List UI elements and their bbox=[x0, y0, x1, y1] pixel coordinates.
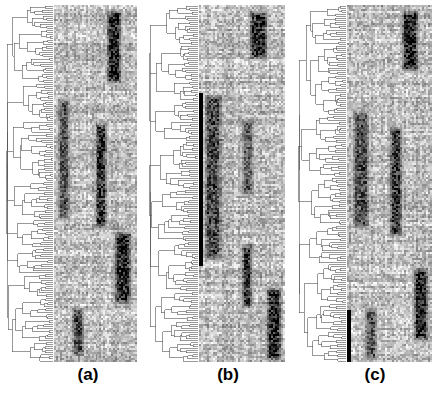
heatmap-canvas bbox=[54, 5, 137, 362]
panel-label-c: (c) bbox=[335, 365, 415, 385]
figure-canvas: (a) (b) (c) bbox=[0, 0, 442, 396]
dendrogram-c bbox=[297, 5, 347, 362]
heatmap-b bbox=[199, 5, 285, 362]
heatmap-canvas bbox=[347, 5, 432, 362]
panel-a bbox=[5, 5, 137, 362]
panel-b bbox=[148, 5, 285, 362]
panel-label-a: (a) bbox=[48, 365, 128, 385]
panel-a-body bbox=[5, 5, 137, 362]
panel-c bbox=[297, 5, 432, 362]
heatmap-a bbox=[54, 5, 137, 362]
dendrogram-a bbox=[5, 5, 54, 362]
panel-b-body bbox=[148, 5, 285, 362]
panel-label-b: (b) bbox=[188, 365, 268, 385]
dendrogram-b bbox=[148, 5, 199, 362]
heatmap-c bbox=[347, 5, 432, 362]
heatmap-canvas bbox=[199, 5, 285, 362]
panel-c-body bbox=[297, 5, 432, 362]
